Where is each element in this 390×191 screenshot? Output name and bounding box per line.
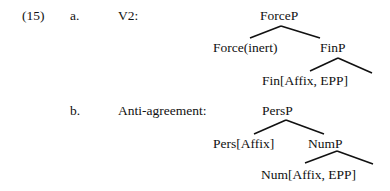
tree-b-left: Pers[Affix] <box>213 137 274 151</box>
tree-a-root: ForceP <box>260 9 298 23</box>
branch-forcep-left <box>250 26 281 38</box>
tree-b-right-left: Num[Affix, EPP] <box>261 168 356 182</box>
item-a-label: V2: <box>118 9 138 23</box>
branch-finp-left <box>310 58 338 71</box>
branch-nump-right <box>337 151 373 164</box>
branch-nump-left <box>305 151 337 163</box>
branch-forcep-right <box>281 26 320 38</box>
branch-persp-left <box>254 120 286 134</box>
item-a-letter: a. <box>70 9 79 23</box>
example-number: (15) <box>22 9 45 23</box>
tree-b-root: PersP <box>262 104 293 118</box>
tree-a-left: Force(inert) <box>213 41 277 55</box>
branch-finp-right <box>338 58 372 73</box>
item-b-letter: b. <box>70 104 80 118</box>
item-b-label: Anti-agreement: <box>118 104 206 118</box>
branch-persp-right <box>286 120 324 134</box>
tree-a-right-left: Fin[Affix, EPP] <box>262 74 348 88</box>
tree-b-right: NumP <box>308 137 343 151</box>
tree-a-right: FinP <box>320 41 346 55</box>
tree-branches <box>0 0 390 191</box>
